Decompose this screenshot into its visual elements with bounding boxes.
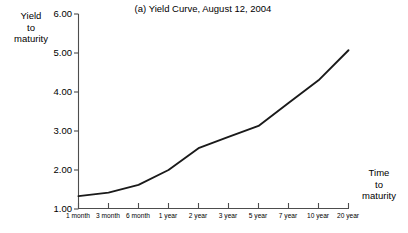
y-axis-ticks [74, 14, 79, 209]
yield-curve-figure: (a) Yield Curve, August 12, 2004 Yield t… [0, 0, 408, 233]
yield-curve-line [79, 50, 349, 196]
x-axis-ticks [79, 203, 349, 209]
plot-area [0, 0, 408, 233]
